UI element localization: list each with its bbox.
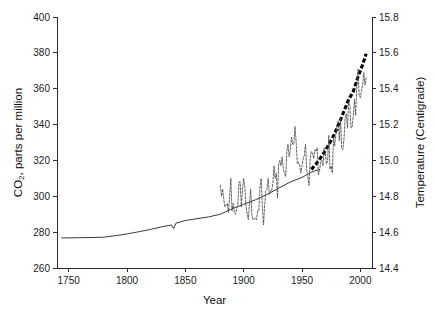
x-tick-label: 2000 (349, 275, 372, 286)
chart-container: 175018001850190019502000 260280300320340… (0, 0, 435, 322)
x-tick-label: 1800 (116, 275, 139, 286)
x-tick-label: 1750 (58, 275, 81, 286)
y-tick-label-left: 260 (33, 263, 50, 274)
axis-labels-layer: YearCO2, parts per millionTemperature (C… (12, 76, 426, 306)
y-tick-label-right: 14.4 (379, 263, 399, 274)
y-tick-label-left: 340 (33, 119, 50, 130)
plot-frame (57, 17, 372, 268)
y-axis-left-ticks: 260280300320340360380400 (33, 12, 57, 274)
y-tick-label-right: 15.2 (379, 119, 399, 130)
y-axis-left-title: CO2, parts per million (12, 88, 26, 197)
y-tick-label-left: 400 (33, 12, 50, 23)
y-tick-label-left: 380 (33, 47, 50, 58)
y-tick-label-left: 280 (33, 227, 50, 238)
climate-chart-svg: 175018001850190019502000 260280300320340… (0, 0, 435, 322)
x-axis-title: Year (203, 294, 226, 306)
y-tick-label-right: 15.0 (379, 155, 399, 166)
y-tick-label-left: 360 (33, 83, 50, 94)
y-tick-label-right: 14.6 (379, 227, 399, 238)
y-axis-right-title: Temperature (Centigrade) (414, 76, 426, 208)
y-tick-label-right: 15.4 (379, 83, 399, 94)
x-tick-label: 1900 (233, 275, 256, 286)
data-series-layer (62, 54, 367, 238)
y-tick-label-right: 14.8 (379, 191, 399, 202)
x-tick-label: 1950 (291, 275, 314, 286)
temperature-series-line (220, 69, 366, 225)
y-tick-label-left: 320 (33, 155, 50, 166)
y-tick-label-left: 300 (33, 191, 50, 202)
x-tick-label: 1850 (174, 275, 197, 286)
x-axis-ticks: 175018001850190019502000 (58, 268, 372, 286)
y-tick-label-right: 15.8 (379, 12, 399, 23)
y-axis-right-ticks: 14.414.614.815.015.215.415.615.8 (372, 12, 399, 274)
y-tick-label-right: 15.6 (379, 47, 399, 58)
co2-icecore-series-line (62, 169, 320, 237)
